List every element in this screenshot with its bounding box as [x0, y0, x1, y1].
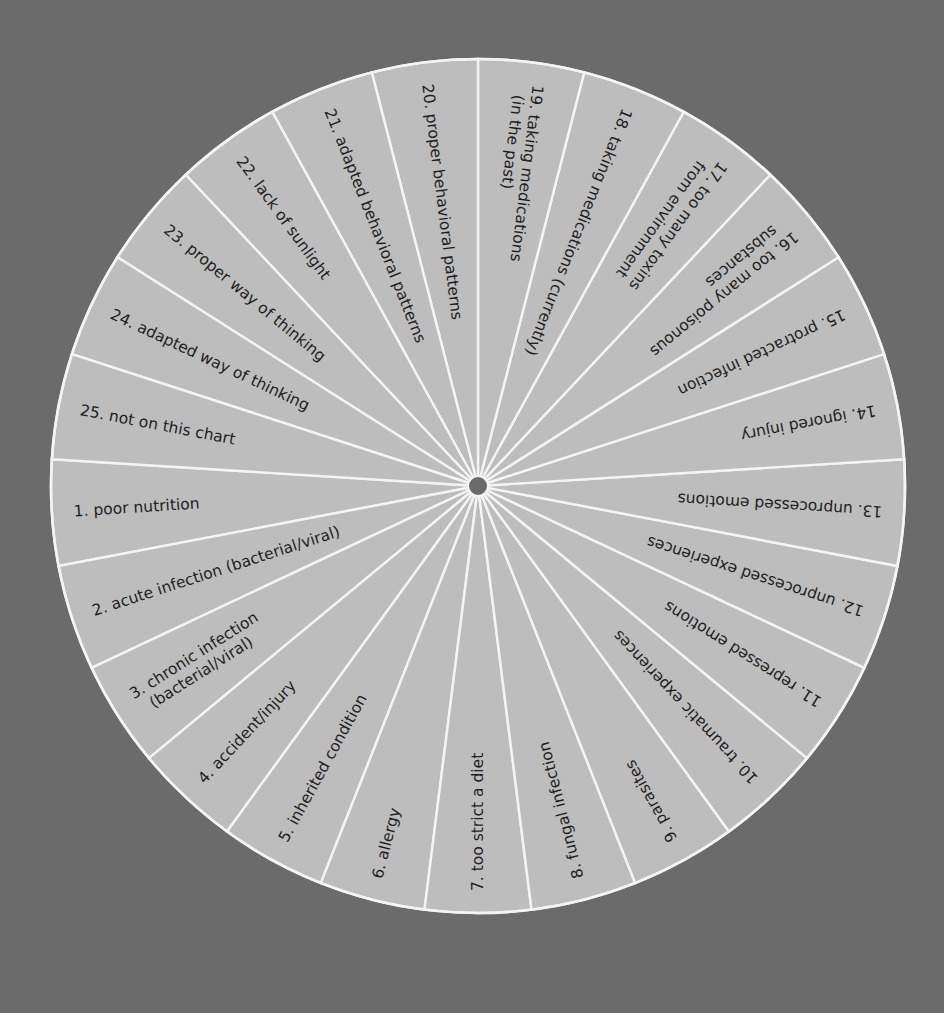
wheel-label-7: 7. too strict a diet: [469, 753, 487, 891]
wheel-chart-stage: 1. poor nutrition2. acute infection (bac…: [0, 0, 944, 1013]
cause-wheel-chart: 1. poor nutrition2. acute infection (bac…: [0, 0, 944, 1013]
wheel-hub-pointer-pivot: [468, 476, 488, 496]
